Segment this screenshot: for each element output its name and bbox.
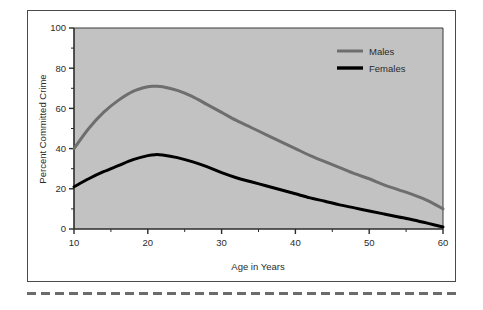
x-tick-label: 60 — [438, 237, 449, 248]
y-tick-label: 20 — [55, 183, 66, 194]
y-tick-label: 80 — [55, 63, 66, 74]
y-tick-label: 60 — [55, 103, 66, 114]
x-tick-label: 50 — [364, 237, 375, 248]
y-axis-tick-labels: 020406080100 — [50, 22, 66, 234]
y-tick-label: 0 — [61, 223, 66, 234]
x-axis-tick-labels: 102030405060 — [69, 237, 449, 248]
x-axis-title: Age in Years — [231, 261, 285, 272]
line-chart: 020406080100 102030405060 MalesFemales A… — [0, 0, 483, 310]
x-tick-label: 10 — [69, 237, 80, 248]
x-tick-label: 40 — [290, 237, 301, 248]
y-tick-label: 100 — [50, 22, 66, 33]
figure-container: 020406080100 102030405060 MalesFemales A… — [0, 0, 483, 310]
legend-label-males: Males — [369, 46, 395, 57]
legend-label-females: Females — [369, 63, 406, 74]
y-axis-title: Percent Committed Crime — [37, 74, 48, 183]
plot-area-background — [74, 28, 443, 229]
x-tick-label: 20 — [143, 237, 154, 248]
y-tick-label: 40 — [55, 143, 66, 154]
x-tick-label: 30 — [216, 237, 227, 248]
